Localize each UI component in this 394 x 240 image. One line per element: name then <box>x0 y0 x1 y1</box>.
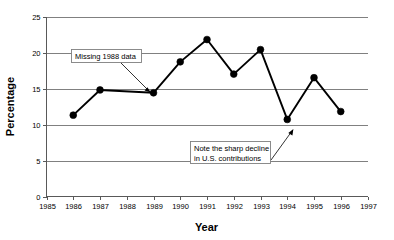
chart-screenshot: 0510152025 19851986198719881989199019911… <box>0 0 394 240</box>
x-tick-label-1995: 1995 <box>306 202 323 211</box>
x-tick-label-1991: 1991 <box>199 202 216 211</box>
line-chart: 0510152025 19851986198719881989199019911… <box>0 0 394 240</box>
y-tick-label-15: 15 <box>32 85 40 94</box>
y-tick-label-25: 25 <box>32 13 40 22</box>
y-tick-label-20: 20 <box>32 49 40 58</box>
data-point-1986 <box>70 112 77 119</box>
annotation-decline-label-line2: in U.S. contributions <box>194 154 261 163</box>
x-tick-label-1988: 1988 <box>119 202 136 211</box>
x-tick-label-1989: 1989 <box>146 202 163 211</box>
y-axis-title: Percentage <box>4 77 16 136</box>
x-tick-label-1990: 1990 <box>172 202 189 211</box>
y-tick-label-10: 10 <box>32 121 40 130</box>
data-point-1993 <box>257 46 264 53</box>
x-tick-label-1987: 1987 <box>92 202 109 211</box>
x-tick-label-1997: 1997 <box>360 202 377 211</box>
data-point-1994 <box>284 116 291 123</box>
x-tick-label-1985: 1985 <box>39 202 56 211</box>
x-tick-label-1993: 1993 <box>253 202 270 211</box>
chart-canvas: 0510152025 19851986198719881989199019911… <box>0 0 394 240</box>
data-point-1990 <box>177 58 184 65</box>
x-tick-label-1992: 1992 <box>226 202 243 211</box>
annotation-decline-label-line1: Note the sharp decline <box>194 144 269 153</box>
annotation-missing-label: Missing 1988 data <box>75 52 137 61</box>
x-tick-label-1986: 1986 <box>65 202 82 211</box>
data-point-1996 <box>337 108 344 115</box>
data-point-1995 <box>311 74 318 81</box>
data-point-1991 <box>204 36 211 43</box>
data-point-1992 <box>230 71 237 78</box>
data-point-1989 <box>150 89 157 96</box>
y-tick-label-5: 5 <box>36 157 40 166</box>
x-tick-label-1996: 1996 <box>333 202 350 211</box>
data-point-1987 <box>97 87 104 94</box>
x-axis-title: Year <box>195 221 219 233</box>
x-tick-label-1994: 1994 <box>279 202 296 211</box>
